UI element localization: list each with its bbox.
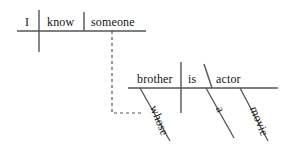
word-verb-is: is	[188, 73, 196, 85]
word-predicate-nominative-actor: actor	[216, 73, 241, 85]
modifier-slant-a	[206, 88, 234, 138]
word-verb-know: know	[47, 16, 74, 28]
predicate-nominative-slant	[204, 64, 212, 88]
word-subject-brother: brother	[137, 73, 173, 85]
word-object-someone: someone	[91, 16, 135, 28]
sentence-diagram: I know someone brother is actor whose a …	[0, 0, 291, 148]
word-subject-i: I	[25, 16, 29, 28]
